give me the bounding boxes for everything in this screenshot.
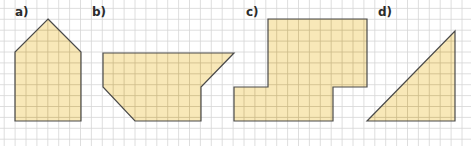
label-shape-d: d) (378, 6, 392, 18)
label-shape-c: c) (246, 6, 259, 18)
label-shape-a: a) (15, 6, 29, 18)
grid-figure (0, 0, 471, 146)
shape-c-fill (234, 19, 367, 121)
shapes (0, 0, 471, 146)
label-shape-b: b) (92, 6, 106, 18)
shape-a (0, 0, 471, 146)
